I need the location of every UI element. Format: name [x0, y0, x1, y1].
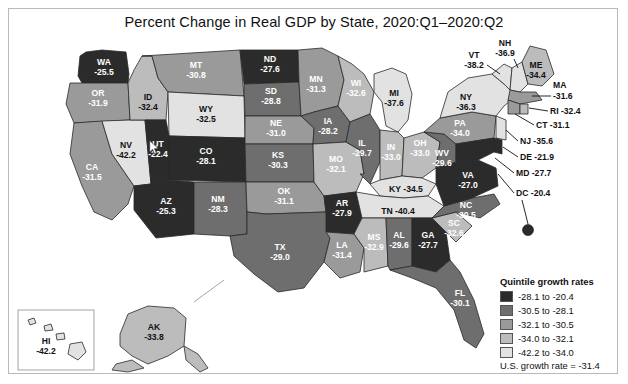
state-FL[interactable]: [390, 260, 484, 348]
dc-marker[interactable]: [523, 225, 534, 236]
value-PA: -34.0: [450, 128, 470, 138]
value-ID: -32.4: [138, 102, 158, 112]
label-MD: MD -27.7: [516, 168, 552, 178]
value-AK: -33.8: [144, 332, 164, 342]
label-IL: IL: [358, 138, 366, 148]
state-DE[interactable]: [494, 138, 502, 154]
value-MA: -31.6: [553, 91, 573, 101]
state-AK-aleut[interactable]: [112, 360, 144, 372]
legend-label-0: -28.1 to -20.4: [518, 291, 574, 302]
label-CO: CO: [200, 146, 213, 156]
value-WA: -25.5: [94, 67, 114, 77]
label-KS: KS: [272, 150, 284, 160]
label-VA: VA: [462, 170, 473, 180]
legend-label-4: -42.2 to -34.0: [518, 347, 574, 358]
label-TX: TX: [275, 242, 286, 252]
legend-swatch-4: [500, 347, 513, 358]
value-MS: -32.9: [364, 242, 384, 252]
label-NH: NH: [499, 38, 511, 48]
value-CA: -31.5: [82, 172, 102, 182]
value-NC: -30.5: [456, 210, 476, 220]
state-HI-b[interactable]: [44, 324, 53, 331]
legend-swatch-3: [500, 333, 513, 344]
value-OR: -31.9: [88, 98, 108, 108]
value-WV: -29.6: [432, 158, 452, 168]
label-OH: OH: [414, 138, 427, 148]
label-CA: CA: [86, 162, 98, 172]
label-WY: WY: [199, 104, 213, 114]
state-HI-d[interactable]: [68, 342, 86, 360]
state-NJ[interactable]: [496, 116, 506, 140]
value-FL: -30.1: [450, 298, 470, 308]
label-NY: NY: [460, 92, 472, 102]
value-HI: -42.2: [36, 346, 56, 356]
value-AL: -29.6: [389, 240, 409, 250]
legend-row-0[interactable]: -28.1 to -20.4: [500, 289, 622, 303]
state-AK-pan[interactable]: [184, 346, 208, 372]
label-TN: TN -40.4: [381, 206, 415, 216]
value-IA: -28.2: [318, 126, 338, 136]
legend-row-4[interactable]: -42.2 to -34.0: [500, 345, 622, 359]
leader-DE: [503, 147, 518, 157]
value-ND: -27.6: [260, 64, 280, 74]
label-MS: MS: [368, 232, 381, 242]
label-AK: AK: [148, 322, 161, 332]
state-HI[interactable]: [28, 318, 36, 325]
legend-row-3[interactable]: -34.0 to -32.1: [500, 331, 622, 345]
value-NE: -31.0: [266, 128, 286, 138]
label-NV: NV: [120, 140, 132, 150]
label-OR: OR: [92, 88, 106, 98]
value-IN: -33.0: [381, 152, 401, 162]
value-NV: -42.2: [116, 150, 136, 160]
label-LA: LA: [336, 240, 347, 250]
legend-label-2: -32.1 to -30.5: [518, 319, 574, 330]
value-GA: -27.7: [418, 240, 438, 250]
state-HI-c[interactable]: [56, 333, 65, 340]
legend-row-2[interactable]: -32.1 to -30.5: [500, 317, 622, 331]
label-MN: MN: [309, 74, 322, 84]
value-MO: -32.1: [326, 164, 346, 174]
label-MO: MO: [329, 154, 343, 164]
label-FL: FL: [455, 288, 466, 298]
label-NM: NM: [211, 194, 224, 204]
label-HI: HI: [42, 336, 51, 346]
label-MI: MI: [389, 88, 399, 98]
value-ME: -34.4: [526, 70, 546, 80]
label-DC: DC -20.4: [516, 188, 551, 198]
state-RI[interactable]: [520, 104, 528, 114]
label-AZ: AZ: [160, 196, 171, 206]
label-AL: AL: [393, 230, 404, 240]
leader-DC: [498, 174, 514, 193]
legend-swatch-2: [500, 319, 513, 330]
value-SC: -32.6: [444, 228, 464, 238]
legend-footer: U.S. growth rate = -31.4: [500, 360, 622, 371]
value-KS: -30.3: [268, 160, 288, 170]
label-WV: WV: [435, 148, 449, 158]
label-NC: NC: [460, 200, 472, 210]
legend-row-1[interactable]: -30.5 to -28.1: [500, 303, 622, 317]
value-IL: -29.7: [352, 148, 372, 158]
value-WI: -32.6: [346, 88, 366, 98]
label-IN: IN: [387, 142, 396, 152]
label-WA: WA: [97, 57, 111, 67]
label-ID: ID: [144, 92, 153, 102]
value-VA: -27.0: [458, 180, 478, 190]
value-VT: -38.2: [464, 60, 484, 70]
label-DE: DE -21.9: [520, 152, 554, 162]
label-CT: CT -31.1: [536, 120, 570, 130]
leader-NJ: [506, 130, 518, 141]
map-legend: Quintile growth rates -28.1 to -20.4 -30…: [500, 276, 622, 371]
value-NY: -36.3: [456, 102, 476, 112]
value-OK: -31.1: [274, 196, 294, 206]
screenshot-root: Percent Change in Real GDP by State, 202…: [0, 0, 628, 384]
label-RI: RI -32.4: [550, 106, 581, 116]
label-AR: AR: [336, 198, 349, 208]
leader-CT: [515, 114, 534, 125]
value-AZ: -25.3: [156, 206, 176, 216]
page-title: Percent Change in Real GDP by State, 202…: [0, 14, 628, 30]
value-MN: -31.3: [306, 84, 326, 94]
value-LA: -31.4: [332, 250, 352, 260]
value-NM: -28.3: [208, 204, 228, 214]
label-VT: VT: [469, 50, 481, 60]
label-WI: WI: [351, 78, 362, 88]
